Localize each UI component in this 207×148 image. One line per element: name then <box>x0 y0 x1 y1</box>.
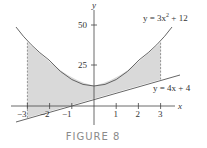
svg-text:−2: −2 <box>40 109 50 119</box>
svg-text:1: 1 <box>114 109 119 119</box>
svg-text:3: 3 <box>158 109 163 119</box>
svg-text:25: 25 <box>78 60 88 70</box>
line-label: y = 4x + 4 <box>153 83 191 93</box>
svg-text:−1: −1 <box>62 109 72 119</box>
svg-text:50: 50 <box>78 20 88 30</box>
svg-text:2: 2 <box>136 109 141 119</box>
parabola-label: y = 3x2 + 12 <box>143 12 188 23</box>
chart-svg: −3 −2 −1 1 2 3 25 50 x y y = 3x2 + 12 y … <box>0 0 207 148</box>
y-axis-label: y <box>91 0 96 10</box>
x-axis-label: x <box>177 101 182 111</box>
y-tick-labels: 25 50 <box>78 20 88 70</box>
svg-text:−3: −3 <box>17 109 27 119</box>
figure-caption: FIGURE 8 <box>0 131 186 142</box>
